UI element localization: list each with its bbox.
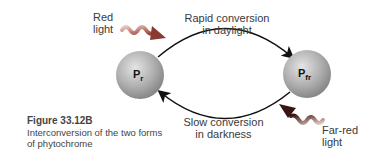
red-light-wave-icon — [122, 26, 166, 40]
slow-conversion-line2: in darkness — [181, 128, 266, 140]
pfr-label-sub: fr — [305, 73, 311, 82]
slow-conversion-line1: Slow conversion — [181, 116, 266, 128]
rapid-conversion-line2: in daylight — [182, 24, 272, 36]
pr-label: Pr — [133, 68, 143, 85]
red-light-line2: light — [93, 23, 113, 35]
red-light-line1: Red — [93, 11, 113, 23]
red-light-label: Red light — [93, 11, 113, 35]
figure-number: Figure 33.12B — [27, 115, 93, 126]
rapid-conversion-line1: Rapid conversion — [182, 12, 272, 24]
figure-caption: Interconversion of the two forms of phyt… — [27, 127, 167, 149]
phytochrome-diagram: Pr Pfr Red light Far-red light Rapid con… — [0, 0, 375, 161]
rapid-conversion-label: Rapid conversion in daylight — [182, 12, 272, 36]
pr-label-sub: r — [140, 74, 143, 83]
far-red-light-label: Far-red light — [322, 124, 358, 148]
far-red-light-wave-icon — [279, 104, 323, 123]
pfr-label: Pfr — [298, 67, 311, 84]
slow-conversion-arrow — [160, 92, 290, 119]
far-red-light-line1: Far-red — [322, 124, 358, 136]
far-red-light-line2: light — [322, 136, 358, 148]
slow-conversion-label: Slow conversion in darkness — [181, 116, 266, 140]
